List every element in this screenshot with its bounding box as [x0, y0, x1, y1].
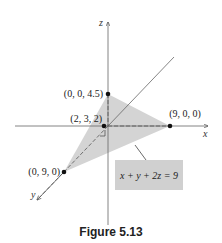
x-axis-label: x [202, 128, 208, 139]
label-point-on-plane: (2, 3, 2) [70, 113, 102, 125]
label-z-intercept: (0, 0, 4.5) [64, 88, 103, 100]
label-x-intercept: (9, 0, 0) [169, 108, 201, 120]
point-on-plane [102, 124, 107, 129]
y-axis-label: y [30, 189, 36, 200]
figure: x + y + 2z = 9 (0, 0, 4.5) (9, 0, 0) (0,… [0, 0, 222, 243]
point-x-intercept [168, 124, 173, 129]
label-y-intercept: (0, 9, 0) [28, 166, 60, 178]
plane-diagram: x + y + 2z = 9 (0, 0, 4.5) (9, 0, 0) (0,… [0, 0, 222, 243]
callout-line [135, 145, 146, 160]
z-axis-label: z [98, 17, 103, 28]
figure-caption: Figure 5.13 [0, 225, 222, 239]
point-z-intercept [106, 92, 111, 97]
equation-label: x + y + 2z = 9 [119, 170, 178, 181]
point-y-intercept [62, 170, 67, 175]
